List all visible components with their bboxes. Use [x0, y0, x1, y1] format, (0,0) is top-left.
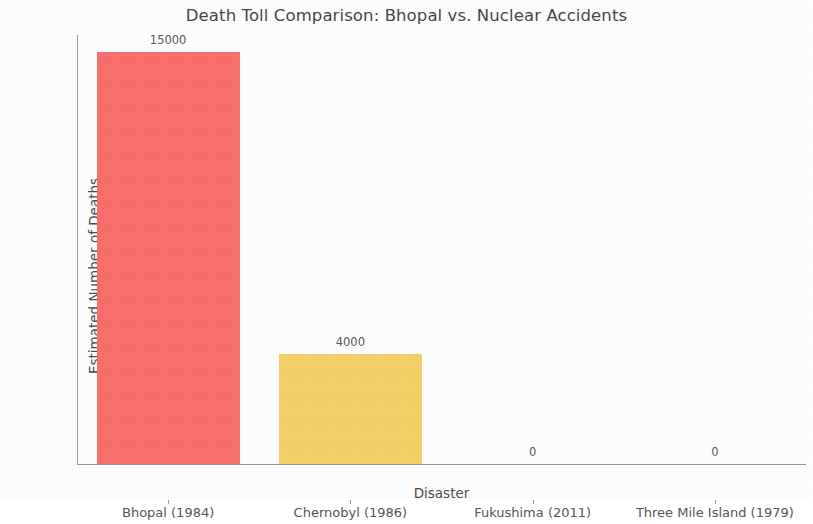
x-axis-spine — [77, 464, 806, 465]
x-tick-label: Three Mile Island (1979) — [615, 505, 813, 520]
x-tick-label: Chernobyl (1986) — [250, 505, 450, 520]
bar-value-label: 4000 — [250, 335, 450, 349]
bar-value-label: 0 — [615, 445, 813, 459]
bar-value-label: 0 — [433, 445, 633, 459]
chart-title: Death Toll Comparison: Bhopal vs. Nuclea… — [0, 6, 813, 25]
x-tick-label: Bhopal (1984) — [68, 505, 268, 520]
bar — [97, 52, 240, 465]
x-tick-label: Fukushima (2011) — [433, 505, 633, 520]
x-axis-label: Disaster — [77, 485, 806, 501]
bar — [279, 354, 422, 464]
bar-value-label: 15000 — [68, 33, 268, 47]
plot-area: Estimated Number of Deaths 0200040006000… — [77, 35, 806, 464]
